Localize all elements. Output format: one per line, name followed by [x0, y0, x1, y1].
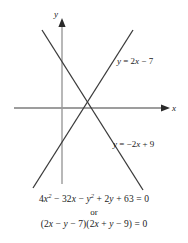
- cap1-term5: + 63 = 0: [114, 194, 149, 204]
- line2-equals: =: [117, 139, 127, 149]
- cap3-part1: (2: [41, 219, 49, 229]
- cap3-part5: − 9) = 0: [114, 219, 148, 229]
- cap3-part3: − 7)(2: [68, 219, 95, 229]
- line2-sign: +: [140, 139, 150, 149]
- caption-equation-expanded: 4x2 − 32x − y2 + 2y + 63 = 0: [0, 193, 188, 206]
- math-figure: y x y = 2x − 7 y = −2x + 9 4x2 − 32x − y…: [0, 0, 188, 243]
- y-axis: [58, 18, 65, 184]
- cap3-part2: −: [53, 219, 63, 229]
- y-axis-arrowhead-icon: [58, 18, 65, 27]
- line-descending: [42, 30, 143, 190]
- cap1-term4: + 2: [94, 194, 109, 204]
- caption-equation-factored: (2x − y − 7)(2x + y − 9) = 0: [0, 218, 188, 231]
- line1-intercept: 7: [149, 56, 154, 66]
- coordinate-plot: [0, 0, 188, 195]
- cap1-term2: − 32: [52, 194, 72, 204]
- x-axis-arrowhead-icon: [161, 104, 170, 111]
- x-axis-label: x: [172, 104, 176, 113]
- line2-slope: −2: [127, 139, 137, 149]
- cap3-part4: +: [99, 219, 109, 229]
- y-axis-label: y: [54, 10, 58, 19]
- line-label-descending: y = −2x + 9: [113, 140, 154, 149]
- figure-caption: 4x2 − 32x − y2 + 2y + 63 = 0 or (2x − y …: [0, 193, 188, 231]
- line-ascending: [33, 30, 133, 188]
- line1-sign: −: [139, 56, 149, 66]
- cap1-term3: −: [76, 194, 86, 204]
- line2-intercept: 9: [150, 139, 155, 149]
- line1-equals: =: [121, 56, 131, 66]
- caption-connector: or: [0, 206, 188, 218]
- line-label-ascending: y = 2x − 7: [117, 57, 153, 66]
